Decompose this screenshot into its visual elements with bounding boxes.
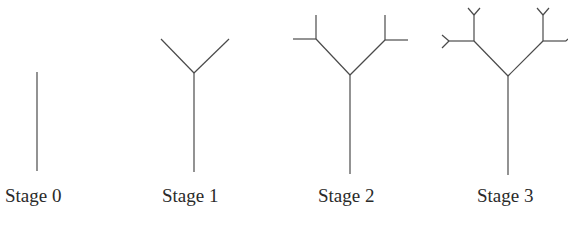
stage-1-tree — [161, 39, 229, 172]
stage-1-label: Stage 1 — [162, 186, 218, 205]
stage-3-tree — [442, 8, 568, 175]
stage-2-tree — [293, 15, 408, 174]
stage-3-label: Stage 3 — [477, 186, 533, 205]
stage-0-label: Stage 0 — [5, 186, 61, 205]
stage-2-label: Stage 2 — [318, 186, 374, 205]
